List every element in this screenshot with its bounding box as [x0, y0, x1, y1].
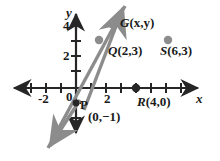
point-label-p-coords: (0,−1) — [88, 110, 120, 123]
y-tick-label-4: 4 — [63, 19, 70, 32]
point-label-r: R(4,0) — [137, 95, 171, 108]
point-q-dot — [95, 36, 103, 44]
point-label-s-coords: (6,3) — [167, 43, 192, 58]
point-label-g-coords: (x,y) — [129, 15, 154, 30]
x-tick-label-2: 2 — [104, 92, 111, 105]
point-label-r-coords: (4,0) — [146, 94, 171, 109]
x-axis-label: x — [196, 92, 203, 105]
point-g-dot — [108, 20, 116, 28]
point-r-dot — [132, 84, 140, 92]
origin-label: 0 — [66, 90, 73, 103]
y-tick-label-2: 2 — [63, 49, 70, 62]
point-label-s: S(6,3) — [160, 44, 192, 57]
point-p-dot — [73, 100, 80, 107]
y-axis — [71, 14, 81, 133]
coordinate-plane-figure: y x 4 2 -2 2 0 G(x,y) Q(2,3) S(6,3) P (0… — [0, 0, 220, 161]
point-label-g: G(x,y) — [120, 16, 154, 29]
point-label-q-coords: (2,3) — [117, 43, 142, 58]
point-label-g-name: G — [120, 15, 129, 30]
point-label-q-name: Q — [108, 43, 117, 58]
graph-canvas — [0, 0, 220, 161]
point-label-p-name: P — [80, 98, 88, 111]
x-tick-label-minus-2: -2 — [38, 92, 49, 105]
point-label-q: Q(2,3) — [108, 44, 142, 57]
point-label-r-name: R — [137, 94, 146, 109]
